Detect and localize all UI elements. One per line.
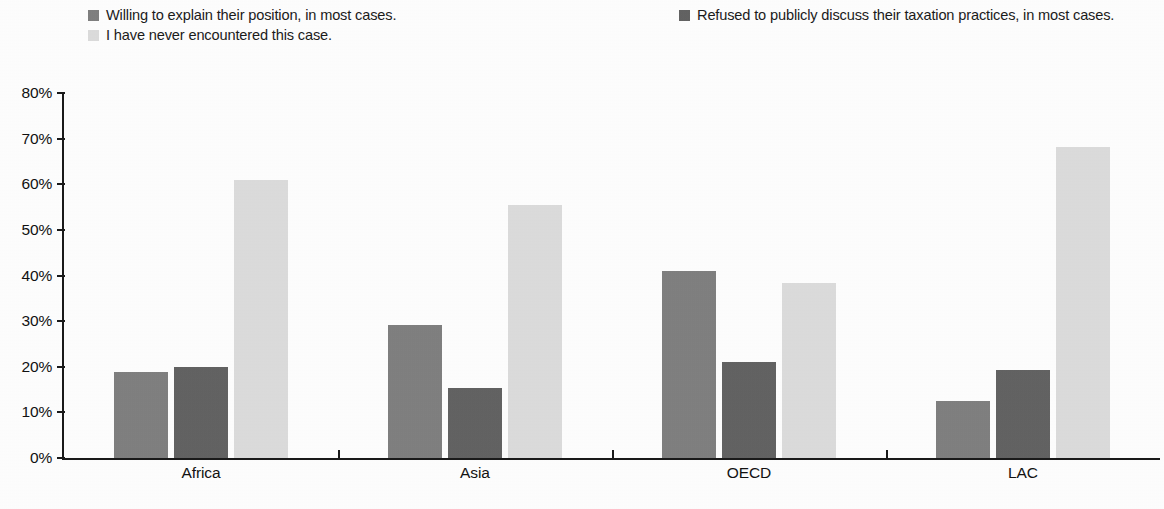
bar [662,271,716,458]
x-axis-category-label: Asia [395,464,555,482]
bar [996,370,1050,459]
y-axis-tick-label: 60% [0,184,52,202]
plot-area [64,93,1160,458]
bar [114,372,168,458]
y-axis-tick-label: 10% [0,412,52,430]
bar [1056,147,1110,458]
y-axis-tick-label: 30% [0,321,52,339]
legend-swatch-series-1 [88,10,99,21]
chart-legend: Willing to explain their position, in mo… [0,0,1164,60]
bar [234,180,288,458]
bar [388,325,442,458]
x-axis-category-label: OECD [669,464,829,482]
bar [508,205,562,458]
y-axis-tick-label: 70% [0,139,52,157]
x-axis-line [62,458,1160,460]
bar [936,401,990,458]
chart-figure: Willing to explain their position, in mo… [0,0,1164,509]
plot-region: 80%70%60%50%40%30%20%10%0% AfricaAsiaOEC… [0,60,1164,509]
y-axis-tick-label: 40% [0,276,52,294]
bar [722,362,776,458]
y-axis-tick-label: 20% [0,367,52,385]
legend-swatch-series-2 [679,10,690,21]
x-axis-category-label: Africa [121,464,281,482]
bar [174,367,228,458]
bar [448,388,502,458]
legend-swatch-series-3 [88,30,99,41]
y-axis-tick-label: 50% [0,230,52,248]
x-axis-category-label: LAC [943,464,1103,482]
y-axis-tick-label: 0% [0,458,52,476]
legend-label-series-2: Refused to publicly discuss their taxati… [697,6,1114,24]
legend-label-series-3: I have never encountered this case. [106,26,332,44]
bar [782,283,836,458]
legend-label-series-1: Willing to explain their position, in mo… [106,6,396,24]
legend-entry-never-encountered[interactable]: I have never encountered this case. [88,26,332,44]
legend-entry-willing-to-explain[interactable]: Willing to explain their position, in mo… [88,6,396,24]
y-axis-tick-label: 80% [0,93,52,111]
legend-entry-refused-to-discuss[interactable]: Refused to publicly discuss their taxati… [679,6,1114,24]
